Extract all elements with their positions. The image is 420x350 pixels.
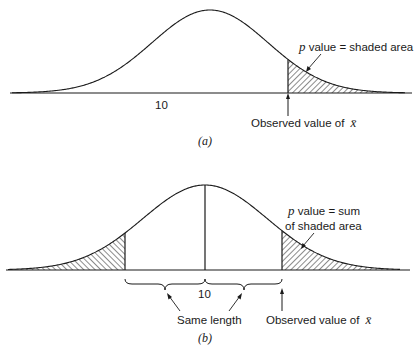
p-value-pointer-arrow-icon <box>301 233 314 249</box>
p-value-pointer-arrow-icon <box>306 54 321 72</box>
caption-a: (a) <box>198 134 212 148</box>
p-value-label-line1: p value = sum <box>287 203 360 218</box>
p-value-label: p value = shaded area <box>298 39 414 54</box>
center-value-label: 10 <box>198 288 211 300</box>
same-length-label: Same length <box>177 314 242 326</box>
same-length-right-arrow-icon <box>229 293 242 311</box>
caption-b: (b) <box>198 331 212 345</box>
observed-arrow-icon <box>280 288 284 311</box>
left-brace-icon <box>125 279 205 290</box>
right-brace-icon <box>205 279 282 290</box>
p-value-diagram: 10 p value = shaded area Observed value … <box>0 0 420 350</box>
shaded-left-tail-area <box>12 233 125 270</box>
observed-value-label: Observed value of x̄ <box>266 312 372 327</box>
p-value-label-line2: of shaded area <box>285 220 362 232</box>
panel-a: 10 p value = shaded area Observed value … <box>10 10 414 148</box>
center-value-label: 10 <box>155 99 168 111</box>
same-length-left-arrow-icon <box>167 293 180 311</box>
panel-b: 10 p value = sum of shaded area Same len… <box>6 185 410 345</box>
observed-arrow-icon <box>286 93 290 116</box>
shaded-tail-area <box>288 59 400 93</box>
observed-value-label: Observed value of x̄ <box>251 115 357 130</box>
shaded-right-tail-area <box>282 231 396 270</box>
